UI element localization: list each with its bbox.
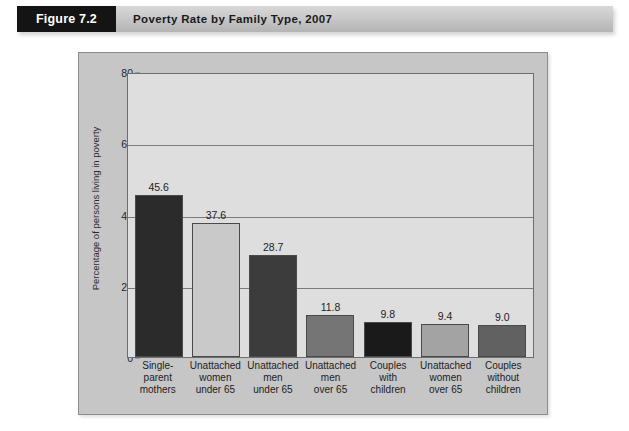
x-axis-tick-label-line: Unattached	[244, 360, 302, 372]
x-axis-tick-label: Coupleswithchildren	[359, 360, 417, 396]
x-axis-tick-label-line: women	[417, 372, 475, 384]
bar: 37.6	[192, 223, 240, 357]
x-axis-tick-labels: Single-parentmothersUnattachedwomenunder…	[127, 360, 534, 396]
bar-slot: 9.0	[474, 74, 531, 357]
chart-panel: Percentage of persons living in poverty …	[78, 52, 548, 415]
bar-value-label: 28.7	[263, 241, 283, 253]
bar-value-label: 45.6	[148, 181, 168, 193]
x-axis-tick-label-line: Couples	[359, 360, 417, 372]
x-axis-tick-label-line: men	[244, 372, 302, 384]
bar-value-label: 11.8	[321, 301, 341, 313]
x-axis-tick-label-line: Unattached	[187, 360, 245, 372]
bar-value-label: 9.4	[438, 310, 453, 322]
bar-slot: 9.8	[359, 74, 416, 357]
bar-slot: 37.6	[187, 74, 244, 357]
bar-slot: 9.4	[416, 74, 473, 357]
x-axis-tick-label-line: children	[474, 384, 532, 396]
bar: 9.4	[421, 324, 469, 357]
figure-title: Poverty Rate by Family Type, 2007	[116, 6, 613, 32]
x-axis-tick-label-line: Single-	[129, 360, 187, 372]
bar-value-label: 9.8	[380, 308, 395, 320]
x-axis-tick-label: Single-parentmothers	[129, 360, 187, 396]
x-axis-tick-label-line: under 65	[244, 384, 302, 396]
x-axis-tick-label-line: parent	[129, 372, 187, 384]
plot-area: 45.637.628.711.89.89.49.0	[127, 73, 534, 358]
bar-slot: 28.7	[245, 74, 302, 357]
bar-series: 45.637.628.711.89.89.49.0	[128, 74, 533, 357]
x-axis-tick-label: Unattachedwomenunder 65	[187, 360, 245, 396]
bar: 11.8	[306, 315, 354, 357]
x-axis-tick-label-line: with	[359, 372, 417, 384]
bar: 9.8	[364, 322, 412, 357]
bar-value-label: 9.0	[495, 311, 510, 323]
x-axis-tick-label-line: men	[302, 372, 360, 384]
y-axis-title-text: Percentage of persons living in poverty	[91, 126, 102, 290]
x-axis-tick-label-line: Couples	[474, 360, 532, 372]
bar: 9.0	[478, 325, 526, 357]
bar-value-label: 37.6	[206, 209, 226, 221]
bar-slot: 45.6	[130, 74, 187, 357]
x-axis-tick-label: Unattachedmenover 65	[302, 360, 360, 396]
x-axis-tick-label: Unattachedwomenover 65	[417, 360, 475, 396]
figure-header-bar: Figure 7.2 Poverty Rate by Family Type, …	[17, 6, 613, 32]
x-axis-tick-label-line: over 65	[302, 384, 360, 396]
x-axis-tick-label: Unattachedmenunder 65	[244, 360, 302, 396]
x-axis-tick-label-line: under 65	[187, 384, 245, 396]
x-axis-tick-label-line: over 65	[417, 384, 475, 396]
bar-slot: 11.8	[302, 74, 359, 357]
bar: 45.6	[135, 195, 183, 357]
x-axis-tick-label-line: women	[187, 372, 245, 384]
x-axis-tick-label-line: children	[359, 384, 417, 396]
x-axis-tick-label-line: Unattached	[417, 360, 475, 372]
figure-number-tag: Figure 7.2	[17, 6, 116, 32]
bar: 28.7	[249, 255, 297, 357]
x-axis-tick-label-line: mothers	[129, 384, 187, 396]
x-axis-tick-label-line: without	[474, 372, 532, 384]
x-axis-tick-label-line: Unattached	[302, 360, 360, 372]
x-axis-tick-label: Coupleswithoutchildren	[474, 360, 532, 396]
